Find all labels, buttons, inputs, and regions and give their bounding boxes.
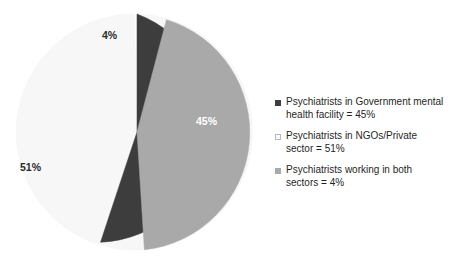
legend-label-both-sectors: Psychiatrists working in both sectors = … [286,164,412,189]
pie-label-government: 45% [196,116,217,127]
legend-swatch-icon-government [275,100,281,106]
pie-chart-figure: 45% 51% 4% Psychiatrists in Government m… [0,0,470,262]
legend-item-ngo-private[interactable]: Psychiatrists in NGOs/Private sector = 5… [275,130,465,155]
legend-item-government[interactable]: Psychiatrists in Government mental healt… [275,96,465,121]
legend-swatch-icon-ngo-private [275,134,281,140]
pie-label-both-sectors: 4% [102,30,117,41]
legend-swatch-icon-both-sectors [275,168,281,174]
pie-label-ngo-private: 51% [20,162,41,173]
pie-svg [0,0,262,262]
legend-label-government: Psychiatrists in Government mental healt… [286,96,443,121]
legend-label-ngo-private: Psychiatrists in NGOs/Private sector = 5… [286,130,417,155]
legend-item-both-sectors[interactable]: Psychiatrists working in both sectors = … [275,164,465,189]
chart-legend: Psychiatrists in Government mental healt… [275,96,465,198]
pie-chart-plot-area: 45% 51% 4% [0,0,262,262]
